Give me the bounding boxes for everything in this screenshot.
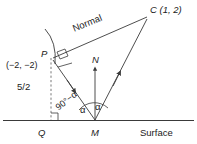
reflected-ray-arrow: [113, 72, 120, 86]
right-angle-marker-q: [51, 113, 58, 120]
label-point-c: C (1, 2): [150, 5, 182, 15]
label-surface: Surface: [140, 128, 173, 138]
label-angle-of-incidence: α: [80, 105, 86, 115]
label-distance-five-halves: 5/2: [17, 82, 30, 92]
label-point-q: Q: [38, 128, 45, 138]
label-point-m: M: [91, 128, 99, 138]
geometry-diagram: C (1, 2) P (−2, −2) Normal N 5/2 90°−α α…: [0, 0, 197, 144]
p-pointer-tick: [58, 63, 72, 67]
label-p-coordinates: (−2, −2): [6, 61, 38, 70]
label-normal-vector-n: N: [92, 55, 99, 65]
label-point-p: P: [41, 49, 47, 59]
label-angle-of-reflection: α: [95, 102, 101, 112]
